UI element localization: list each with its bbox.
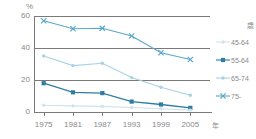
x-tick — [102, 112, 103, 116]
x-axis-unit-label: 年 — [212, 120, 219, 130]
y-axis-unit-label: % — [26, 2, 33, 11]
x-tick-label: 2005 — [175, 120, 205, 129]
series-65-74 — [42, 54, 192, 97]
x-tick-label: 1993 — [117, 120, 147, 129]
y-tick-label: 40 — [14, 43, 30, 52]
x-tick — [161, 112, 162, 116]
x-tick — [44, 112, 45, 116]
y-tick-label: 0 — [14, 107, 30, 116]
legend-rows: 45-6455-6465-7475- — [216, 33, 256, 105]
x-tick-label: 1975 — [29, 120, 59, 129]
legend-marker-icon — [216, 73, 230, 83]
series-layer — [34, 16, 210, 112]
legend-label: 65-74 — [230, 75, 249, 82]
legend-marker-icon — [216, 91, 230, 101]
x-tick-label: 1999 — [146, 120, 176, 129]
legend-label: 45-64 — [230, 39, 249, 46]
legend-item-4564[interactable]: 45-64 — [216, 33, 256, 51]
legend-label: 75- — [230, 93, 241, 100]
chart-root: % 0204060 197519811987199319992005 年 歳 4… — [0, 0, 256, 139]
series-75- — [41, 18, 193, 62]
legend-marker-icon — [216, 55, 230, 65]
x-tick — [190, 112, 191, 116]
x-tick — [132, 112, 133, 116]
legend-title: 歳 — [216, 20, 256, 30]
plot-area — [34, 16, 210, 112]
x-tick — [73, 112, 74, 116]
x-axis-line — [34, 112, 212, 113]
legend-item-6574[interactable]: 65-74 — [216, 69, 256, 87]
legend-item-75[interactable]: 75- — [216, 87, 256, 105]
legend-marker-icon — [216, 37, 230, 47]
legend: 歳 45-6455-6465-7475- — [216, 20, 256, 105]
x-tick-label: 1981 — [58, 120, 88, 129]
legend-item-5564[interactable]: 55-64 — [216, 51, 256, 69]
x-tick-label: 1987 — [87, 120, 117, 129]
y-tick-label: 20 — [14, 75, 30, 84]
legend-label: 55-64 — [230, 57, 249, 64]
y-tick-label: 60 — [14, 11, 30, 20]
